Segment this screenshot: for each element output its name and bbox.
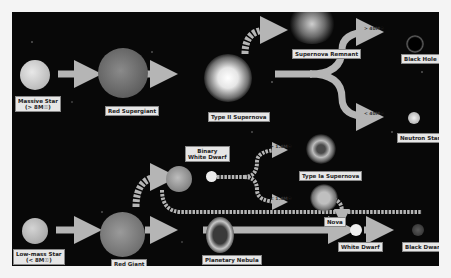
label-planetary-nebula: Planetary Nebula bbox=[202, 255, 262, 265]
stellar-evolution-diagram: Massive Star (> 8M☉) Red Supergiant Type… bbox=[12, 12, 439, 266]
label-supernova-remnant: Supernova Remnant bbox=[292, 49, 361, 59]
type-ii-supernova-image bbox=[204, 54, 252, 102]
type-ia-supernova-image bbox=[306, 134, 336, 164]
label-black-hole: Black Hole bbox=[401, 54, 439, 64]
label-type-ii-supernova: Type II Supernova bbox=[208, 112, 270, 122]
black-hole-image bbox=[406, 35, 424, 53]
binary-companion-image bbox=[166, 166, 192, 192]
edge-label-below-40: < 40M☉ bbox=[364, 111, 384, 116]
edge-label-below-14: < 1.4M☉ bbox=[270, 196, 292, 201]
white-dwarf-image bbox=[350, 224, 362, 236]
label-neutron-star: Neutron Star bbox=[397, 133, 439, 143]
label-white-dwarf: White Dwarf bbox=[338, 242, 383, 252]
label-red-giant: Red Giant bbox=[111, 259, 147, 266]
red-supergiant-image bbox=[98, 48, 148, 98]
black-dwarf-image bbox=[412, 224, 424, 236]
label-binary-white-dwarf: Binary White Dwarf bbox=[185, 146, 230, 162]
label-nova: Nova bbox=[324, 217, 346, 227]
neutron-star-image bbox=[408, 112, 420, 124]
edge-label-above-14: > 1.4M☉ bbox=[270, 144, 292, 149]
label-red-supergiant: Red Supergiant bbox=[105, 106, 159, 116]
binary-white-dwarf-image bbox=[206, 171, 217, 182]
planetary-nebula-image bbox=[206, 217, 234, 253]
label-type-ia-supernova: Type Ia Supernova bbox=[299, 171, 362, 181]
low-mass-star-image bbox=[22, 218, 48, 244]
red-giant-image bbox=[100, 212, 145, 257]
nova-image bbox=[310, 184, 338, 212]
label-black-dwarf: Black Dwarf bbox=[402, 242, 439, 252]
label-low-mass-star: Low-mass Star (< 8M☉) bbox=[13, 249, 65, 265]
edge-label-above-40: > 40M☉ bbox=[364, 26, 384, 31]
massive-star-image bbox=[20, 60, 50, 90]
label-massive-star: Massive Star (> 8M☉) bbox=[15, 96, 61, 112]
